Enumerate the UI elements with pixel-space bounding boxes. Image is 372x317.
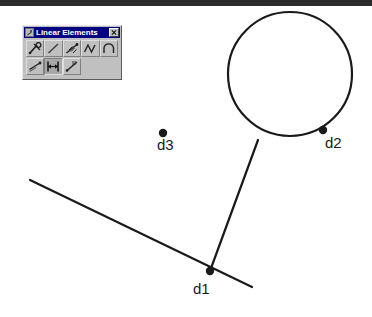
- offset-line-icon: [28, 60, 43, 73]
- point-d2-label: d2: [325, 134, 342, 151]
- toolbar-title: Linear Elements: [36, 27, 107, 38]
- toolbar-spacer-2: [100, 58, 118, 75]
- linear-elements-toolbar[interactable]: Linear Elements: [22, 25, 122, 80]
- toolbar-body: [24, 38, 120, 78]
- diagonal-line[interactable]: [30, 180, 252, 287]
- arc-tool-button[interactable]: [100, 40, 118, 57]
- toolbar-spacer-1: [81, 58, 99, 75]
- offset-line-tool-button[interactable]: [26, 58, 44, 75]
- toolbar-titlebar[interactable]: Linear Elements: [24, 27, 120, 38]
- close-icon[interactable]: [109, 28, 119, 37]
- zigzag-icon: [83, 42, 98, 55]
- point-d3-label: d3: [157, 136, 174, 153]
- circle-shape[interactable]: [228, 12, 352, 136]
- point-d1-label: d1: [193, 280, 210, 297]
- application-window: d1 d2 d3 Linear Elements: [0, 0, 372, 317]
- polyline-node-tool-button[interactable]: [26, 40, 44, 57]
- point-d2-marker[interactable]: [319, 126, 327, 134]
- dimension-tool-button[interactable]: [44, 58, 62, 75]
- line-segment-icon: [46, 42, 61, 55]
- point-d1-marker[interactable]: [206, 267, 214, 275]
- arc-icon: [102, 42, 117, 55]
- arrow-chain-tool-button[interactable]: [63, 40, 81, 57]
- connector-line[interactable]: [210, 140, 258, 271]
- line-segment-tool-button[interactable]: [44, 40, 62, 57]
- arrow-chain-icon: [65, 42, 80, 55]
- toolbar-row-1: [26, 40, 118, 57]
- zigzag-tool-button[interactable]: [81, 40, 99, 57]
- dimension-icon: [46, 60, 61, 73]
- toolbar-row-2: [26, 58, 118, 75]
- polyline-node-icon: [28, 42, 43, 55]
- linear-elements-icon: [25, 28, 34, 37]
- annotate-line-tool-button[interactable]: [63, 58, 81, 75]
- annotate-line-icon: [65, 60, 80, 73]
